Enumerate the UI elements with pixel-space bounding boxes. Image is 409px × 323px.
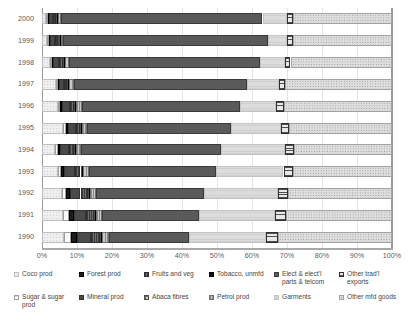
legend-item-othertrad[interactable]: Other trad'l exports bbox=[339, 270, 402, 291]
legend-swatch-tobacco-icon bbox=[209, 272, 214, 277]
legend-label-garments: Garments bbox=[282, 293, 311, 301]
bar-segment-elect-1990[interactable] bbox=[109, 232, 189, 243]
bar-segment-fruits-1992[interactable] bbox=[81, 188, 88, 199]
bar-segment-mineral-1991[interactable] bbox=[74, 210, 86, 221]
bar-segment-mineral-1995[interactable] bbox=[68, 123, 76, 134]
bar-segment-coco-1994[interactable] bbox=[42, 144, 55, 155]
x-axis-tick-30: 30% bbox=[130, 251, 164, 260]
bar-segment-garments-1990[interactable] bbox=[189, 232, 266, 243]
bar-segment-garments-1993[interactable] bbox=[216, 166, 284, 177]
bar-segment-coco-1990[interactable] bbox=[42, 232, 64, 243]
legend-swatch-othermfd-icon bbox=[339, 295, 344, 300]
bar-segment-othermfd-1999[interactable] bbox=[293, 35, 392, 46]
legend-label-sugar: Sugar & sugar prod bbox=[22, 293, 77, 309]
y-axis-label-1998: 1998 bbox=[0, 59, 34, 67]
bar-segment-coco-1997[interactable] bbox=[42, 79, 56, 90]
bar-segment-mineral-1992[interactable] bbox=[70, 188, 81, 199]
bar-row-1990[interactable] bbox=[42, 232, 392, 243]
legend-item-forest[interactable]: Forest prod bbox=[79, 270, 142, 291]
bar-segment-garments-1992[interactable] bbox=[204, 188, 278, 199]
bar-row-1991[interactable] bbox=[42, 210, 392, 221]
legend-item-abaca[interactable]: Abaca fibres bbox=[144, 293, 207, 314]
bar-segment-othertrad-1992[interactable] bbox=[278, 188, 288, 199]
bar-segment-othertrad-1996[interactable] bbox=[276, 101, 284, 112]
bar-segment-othermfd-1998[interactable] bbox=[291, 57, 393, 68]
bar-segment-elect-1996[interactable] bbox=[82, 101, 240, 112]
bar-segment-othertrad-1993[interactable] bbox=[284, 166, 293, 177]
legend-swatch-othertrad-icon bbox=[339, 272, 344, 277]
legend-item-mineral[interactable]: Mineral prod bbox=[79, 293, 142, 314]
bar-segment-mineral-1994[interactable] bbox=[60, 144, 69, 155]
bar-segment-elect-1991[interactable] bbox=[102, 210, 199, 221]
bar-segment-othermfd-1995[interactable] bbox=[289, 123, 392, 134]
legend-item-garments[interactable]: Garments bbox=[274, 293, 337, 314]
legend-item-tobacco[interactable]: Tobacco, unmfd bbox=[209, 270, 272, 291]
bar-row-1992[interactable] bbox=[42, 188, 392, 199]
legend-item-coco[interactable]: Coco prod bbox=[14, 270, 77, 291]
bar-segment-petrol-1990[interactable] bbox=[102, 232, 109, 243]
bar-segment-coco-1991[interactable] bbox=[42, 210, 63, 221]
bar-segment-elect-1998[interactable] bbox=[69, 57, 260, 68]
bar-segment-mineral-1990[interactable] bbox=[77, 232, 91, 243]
bar-row-2000[interactable] bbox=[42, 13, 392, 24]
bar-segment-garments-1997[interactable] bbox=[247, 79, 279, 90]
legend-item-sugar[interactable]: Sugar & sugar prod bbox=[14, 293, 77, 314]
bar-segment-othermfd-1996[interactable] bbox=[284, 101, 392, 112]
bar-segment-othermfd-1993[interactable] bbox=[293, 166, 392, 177]
bar-segment-mineral-1993[interactable] bbox=[64, 166, 74, 177]
bar-segment-othertrad-1991[interactable] bbox=[275, 210, 286, 221]
bar-segment-garments-1995[interactable] bbox=[231, 123, 281, 134]
bar-segment-coco-1998[interactable] bbox=[42, 57, 50, 68]
bar-segment-othermfd-1990[interactable] bbox=[278, 232, 392, 243]
bar-segment-othertrad-1994[interactable] bbox=[285, 144, 294, 155]
bar-segment-othermfd-1994[interactable] bbox=[294, 144, 392, 155]
bar-segment-coco-1996[interactable] bbox=[42, 101, 58, 112]
legend-item-othermfd[interactable]: Other mfd goods bbox=[339, 293, 402, 314]
bar-segment-garments-1996[interactable] bbox=[240, 101, 276, 112]
bar-segment-elect-1995[interactable] bbox=[87, 123, 231, 134]
stacked-bar-chart: 2000199919981997199619951994199319921991… bbox=[0, 0, 409, 323]
legend-swatch-garments-icon bbox=[274, 295, 279, 300]
x-axis-tick-50: 50% bbox=[200, 251, 234, 260]
legend-swatch-elect-icon bbox=[274, 272, 279, 277]
bar-segment-garments-1999[interactable] bbox=[268, 35, 287, 46]
legend-swatch-abaca-icon bbox=[144, 295, 149, 300]
bar-segment-elect-1999[interactable] bbox=[63, 35, 268, 46]
bar-row-1997[interactable] bbox=[42, 79, 392, 90]
legend-item-petrol[interactable]: Petrol prod bbox=[209, 293, 272, 314]
bar-segment-coco-1992[interactable] bbox=[42, 188, 62, 199]
bar-segment-othermfd-1992[interactable] bbox=[288, 188, 392, 199]
x-axis-tick-40: 40% bbox=[165, 251, 199, 260]
bar-segment-othermfd-2000[interactable] bbox=[293, 13, 392, 24]
bar-segment-othermfd-1991[interactable] bbox=[286, 210, 392, 221]
bar-segment-garments-1994[interactable] bbox=[221, 144, 285, 155]
bar-segment-elect-1994[interactable] bbox=[81, 144, 221, 155]
bar-segment-sugar-1990[interactable] bbox=[64, 232, 71, 243]
bar-segment-mineral-1996[interactable] bbox=[62, 101, 70, 112]
legend-label-fruits: Fruits and veg bbox=[152, 270, 194, 278]
bar-segment-elect-2000[interactable] bbox=[61, 13, 263, 24]
bar-segment-coco-1993[interactable] bbox=[42, 166, 58, 177]
bar-segment-coco-1995[interactable] bbox=[42, 123, 63, 134]
bar-row-1993[interactable] bbox=[42, 166, 392, 177]
bar-row-1994[interactable] bbox=[42, 144, 392, 155]
bar-segment-elect-1997[interactable] bbox=[74, 79, 247, 90]
legend-item-elect[interactable]: Elect & elect'l parts & telcom bbox=[274, 270, 337, 291]
bar-segment-garments-2000[interactable] bbox=[263, 13, 288, 24]
bar-segment-fruits-1990[interactable] bbox=[91, 232, 100, 243]
bar-segment-elect-1993[interactable] bbox=[89, 166, 216, 177]
legend-item-fruits[interactable]: Fruits and veg bbox=[144, 270, 207, 291]
bar-row-1995[interactable] bbox=[42, 123, 392, 134]
plot-area bbox=[42, 8, 392, 248]
bar-segment-garments-1998[interactable] bbox=[260, 57, 285, 68]
bar-segment-othertrad-1990[interactable] bbox=[266, 232, 278, 243]
bar-segment-othertrad-1995[interactable] bbox=[281, 123, 289, 134]
x-axis-tick-0: 0% bbox=[25, 251, 59, 260]
bar-segment-othermfd-1997[interactable] bbox=[285, 79, 392, 90]
bar-row-1999[interactable] bbox=[42, 35, 392, 46]
bar-segment-fruits-1991[interactable] bbox=[86, 210, 94, 221]
bar-segment-garments-1991[interactable] bbox=[199, 210, 275, 221]
bar-segment-elect-1992[interactable] bbox=[96, 188, 205, 199]
bar-row-1998[interactable] bbox=[42, 57, 392, 68]
bar-row-1996[interactable] bbox=[42, 101, 392, 112]
